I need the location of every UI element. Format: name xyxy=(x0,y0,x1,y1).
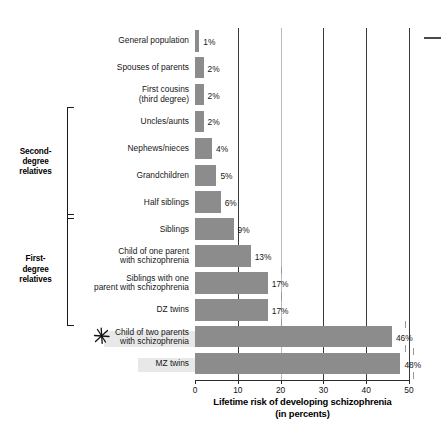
group-label-second-degree: Second-degreerelatives xyxy=(8,147,63,178)
category-label: Spouses of parents xyxy=(117,63,195,73)
bar-value-label: 46% xyxy=(396,333,413,343)
value-leader-tick xyxy=(281,294,282,301)
category-label: Half siblings xyxy=(144,198,195,208)
value-leader-tick xyxy=(413,372,414,379)
group-bracket-first-degree xyxy=(67,214,74,326)
bar xyxy=(195,326,392,348)
bar-row: MZ twins48% xyxy=(0,353,444,375)
bar xyxy=(195,165,216,187)
category-label: MZ twins xyxy=(156,359,196,369)
bar-value-label: 48% xyxy=(404,360,421,370)
group-label-line-2: degree xyxy=(8,265,63,275)
x-tick-label-0: 0 xyxy=(193,385,198,395)
bar-value-label: 4% xyxy=(216,144,228,154)
bar-row: First cousins (third degree)2% xyxy=(0,84,444,106)
bar xyxy=(195,111,204,133)
bar-value-label: 13% xyxy=(255,252,272,262)
x-tick-label-40: 40 xyxy=(362,385,371,395)
bar-value-label: 2% xyxy=(208,64,220,74)
group-label-line-1: First- xyxy=(8,254,63,264)
bar-value-label: 17% xyxy=(272,306,289,316)
x-axis-title-line1: Lifetime risk of developing schizophreni… xyxy=(195,396,410,408)
group-label-line-2: degree xyxy=(8,157,63,167)
bar xyxy=(195,299,268,321)
x-tick-30 xyxy=(323,380,324,384)
x-tick-20 xyxy=(281,380,282,384)
x-tick-0 xyxy=(195,380,196,384)
x-axis-line xyxy=(195,380,410,381)
category-label: Siblings with one parent with schizophre… xyxy=(94,274,195,293)
bar-row: Spouses of parents2% xyxy=(0,57,444,79)
value-leader-tick xyxy=(405,345,406,352)
x-tick-label-10: 10 xyxy=(233,385,242,395)
category-label: Grandchildren xyxy=(136,171,195,181)
x-tick-label-20: 20 xyxy=(276,385,285,395)
bar xyxy=(195,30,199,52)
bar-row: General population1% xyxy=(0,30,444,52)
x-tick-40 xyxy=(366,380,367,384)
value-leader-tick xyxy=(281,267,282,274)
x-tick-10 xyxy=(238,380,239,384)
bar xyxy=(195,353,400,375)
category-label: Uncles/aunts xyxy=(141,117,195,127)
bar-value-label: 5% xyxy=(220,171,232,181)
x-tick-label-30: 30 xyxy=(319,385,328,395)
bar xyxy=(195,191,221,213)
x-axis-title-line2: (in percents) xyxy=(195,408,410,420)
group-bracket-second-degree xyxy=(67,107,74,219)
category-label: Child of two parents with schizophrenia xyxy=(115,328,195,347)
bar-value-label: 9% xyxy=(238,225,250,235)
x-tick-50 xyxy=(409,380,410,384)
bar-value-label: 2% xyxy=(208,117,220,127)
bar xyxy=(195,245,251,267)
value-leader-tick xyxy=(281,319,282,326)
category-label: Siblings xyxy=(160,225,195,235)
bar-row: Child of two parents with schizophrenia4… xyxy=(0,326,444,348)
x-axis-title: Lifetime risk of developing schizophreni… xyxy=(195,396,410,420)
bar xyxy=(195,84,204,106)
category-label: Nephews/nieces xyxy=(128,144,195,154)
bar xyxy=(195,218,234,240)
bar-value-label: 6% xyxy=(225,198,237,208)
value-leader-tick xyxy=(405,321,406,328)
category-label: First cousins (third degree) xyxy=(139,85,195,104)
value-leader-tick xyxy=(413,348,414,355)
bar xyxy=(195,138,212,160)
bar-value-label: 2% xyxy=(208,91,220,101)
category-label: General population xyxy=(118,36,195,46)
group-label-line-3: relatives xyxy=(8,275,63,285)
bar xyxy=(195,272,268,294)
group-label-first-degree: First-degreerelatives xyxy=(8,254,63,285)
bar-chart: General population1%Spouses of parents2%… xyxy=(0,0,444,446)
bar-value-label: 17% xyxy=(272,279,289,289)
group-label-line-3: relatives xyxy=(8,167,63,177)
bar-value-label: 1% xyxy=(203,37,215,47)
x-tick-label-50: 50 xyxy=(404,385,413,395)
group-label-line-1: Second- xyxy=(8,147,63,157)
category-label: Child of one parent with schizophrenia xyxy=(118,247,195,266)
category-label: DZ twins xyxy=(156,305,195,315)
star-asterisk-icon xyxy=(92,326,112,346)
bar xyxy=(195,57,204,79)
